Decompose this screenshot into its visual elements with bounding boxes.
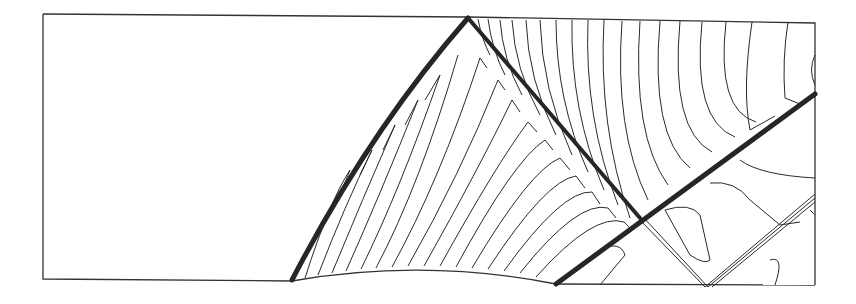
fan-isolines: [305, 55, 630, 278]
domain-frame: [43, 14, 815, 285]
upper-isolines: [478, 19, 815, 218]
contour-plot-figure: [0, 0, 856, 304]
shock-lines: [292, 18, 815, 284]
bump-wall: [292, 270, 556, 284]
lower-right-isolines: [600, 160, 815, 287]
contour-plot-svg: [0, 0, 856, 304]
